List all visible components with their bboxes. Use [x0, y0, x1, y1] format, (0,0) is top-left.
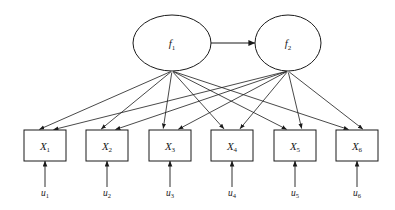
loading-arrow-f2-X1 — [53, 71, 286, 129]
loading-arrow-f2-X6 — [289, 72, 363, 129]
observed-indicator-nodes: X1X2X3X4X5X6 — [24, 130, 378, 161]
factor-loading-paths — [39, 71, 362, 129]
loading-arrow-f1-X2 — [101, 72, 171, 129]
loading-arrow-f2-X5 — [288, 72, 301, 128]
error-label-u3: u3 — [166, 188, 174, 199]
loading-arrow-f2-X4 — [240, 72, 287, 129]
error-label-u6: u6 — [353, 188, 362, 199]
error-term-labels: u1u2u3u4u5u6 — [41, 188, 362, 199]
error-term-paths — [45, 161, 357, 187]
error-label-u4: u4 — [228, 188, 237, 199]
loading-arrow-f1-X1 — [39, 72, 170, 130]
loading-arrow-f1-X4 — [173, 72, 224, 129]
path-diagram-svg: f1f2 X1X2X3X4X5X6 u1u2u3u4u5u6 — [0, 0, 395, 210]
error-label-u1: u1 — [41, 188, 49, 199]
error-label-u5: u5 — [291, 188, 299, 199]
path-diagram-canvas: f1f2 X1X2X3X4X5X6 u1u2u3u4u5u6 — [0, 0, 395, 210]
error-label-u2: u2 — [103, 188, 111, 199]
